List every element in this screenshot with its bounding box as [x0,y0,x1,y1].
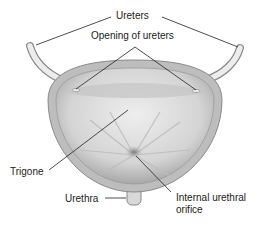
label-ureters: Ureters [116,10,149,21]
label-trigone: Trigone [10,166,44,177]
left-ureter [30,46,62,80]
internal-urethral-orifice [124,145,144,159]
right-ureter [206,48,240,80]
label-urethra: Urethra [65,193,98,204]
label-internal-urethral-orifice-2: orifice [176,204,203,215]
label-internal-urethral-orifice-1: Internal urethral [176,192,246,203]
label-opening-of-ureters: Opening of ureters [91,30,174,41]
